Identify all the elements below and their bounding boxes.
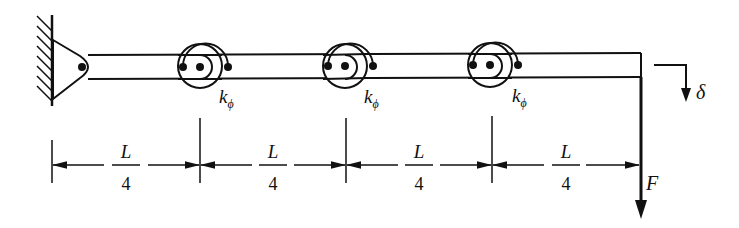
hinge-spring-3 — [468, 43, 522, 87]
dimension-2: L 4 — [259, 141, 287, 194]
beam-diagram: kϕ kϕ kϕ L 4 L 4 L 4 L 4 — [0, 0, 739, 228]
dimension-3: L 4 — [405, 141, 433, 194]
spring-label-2: kϕ — [364, 86, 379, 111]
pin-support — [53, 40, 88, 99]
load-label: F — [645, 172, 659, 194]
arrow-down-icon — [681, 88, 691, 102]
pin-icon — [78, 63, 86, 71]
hinge-spring-2 — [323, 44, 377, 89]
svg-text:L: L — [413, 141, 425, 162]
svg-text:4: 4 — [269, 174, 278, 194]
svg-text:4: 4 — [122, 174, 131, 194]
deflection-label: δ — [696, 81, 706, 103]
spring-label-1: kϕ — [219, 86, 234, 111]
spring-label-3: kϕ — [512, 85, 527, 110]
svg-text:4: 4 — [415, 174, 424, 194]
arrow-down-icon — [635, 200, 647, 219]
svg-text:L: L — [560, 141, 572, 162]
svg-text:4: 4 — [562, 174, 571, 194]
dimension-1: L 4 — [112, 141, 140, 194]
dimension-4: L 4 — [552, 141, 580, 194]
hinge-spring-1 — [178, 44, 232, 89]
svg-text:L: L — [267, 141, 279, 162]
load-arrow — [635, 77, 647, 219]
fixed-wall — [37, 15, 52, 106]
deflection-arrow — [654, 65, 691, 102]
svg-text:L: L — [120, 141, 132, 162]
